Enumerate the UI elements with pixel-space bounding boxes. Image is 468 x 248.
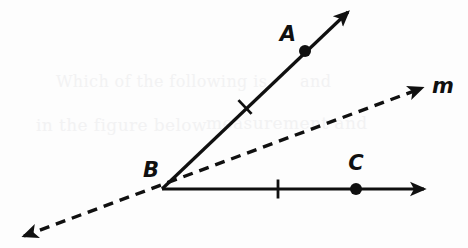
point-a-dot <box>299 45 311 57</box>
ray-ba <box>162 12 348 189</box>
label-point-b: B <box>143 158 159 182</box>
geometry-figure: in the figure below measurement and Whic… <box>0 0 468 248</box>
label-point-c: C <box>348 151 364 175</box>
diagram-canvas: A B C m <box>0 0 468 248</box>
point-c-dot <box>350 183 362 195</box>
label-line-m: m <box>432 74 454 98</box>
label-point-a: A <box>278 22 296 46</box>
